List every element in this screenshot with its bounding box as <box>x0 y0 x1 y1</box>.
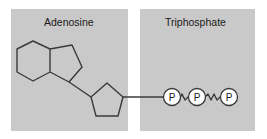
phosphate-label: P <box>226 92 233 103</box>
adenine-ribose-bond <box>69 82 91 97</box>
phosphate-group-3: P <box>221 89 238 106</box>
phosphate-label: P <box>169 92 176 103</box>
phosphate-label: P <box>194 92 201 103</box>
high-energy-bond-2 <box>205 94 220 100</box>
adenine-hexagon-ring <box>17 41 50 81</box>
ribose-pentagon <box>91 83 123 116</box>
phosphate-group-2: P <box>189 89 206 106</box>
adenine-pentagon-ring <box>50 45 82 82</box>
atp-structure: P P P <box>0 0 267 139</box>
phosphate-group-1: P <box>164 89 181 106</box>
